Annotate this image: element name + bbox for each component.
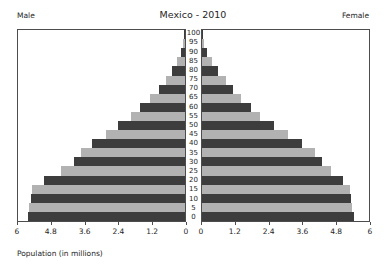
bar-row xyxy=(18,76,185,85)
bar-row xyxy=(18,194,185,203)
male-x-axis: 64.83.62.41.20 xyxy=(17,222,186,244)
female-tick-label-6: 6 xyxy=(368,227,373,236)
female-tick-mark-3.6 xyxy=(302,222,303,225)
male-bar-age-55 xyxy=(131,112,185,121)
male-bar-age-30 xyxy=(74,157,185,166)
age-tick-20: 20 xyxy=(186,176,201,185)
bar-row xyxy=(18,139,185,148)
male-tick-label-6: 6 xyxy=(15,227,20,236)
female-bar-age-15 xyxy=(202,185,350,194)
age-tick-100: 100 xyxy=(186,29,201,38)
bar-row xyxy=(18,130,185,139)
bar-row xyxy=(202,57,369,66)
female-bar-age-80 xyxy=(202,66,218,75)
female-bar-age-95 xyxy=(202,39,204,48)
female-bar-age-55 xyxy=(202,112,260,121)
bar-row xyxy=(202,85,369,94)
male-bar-age-70 xyxy=(159,85,185,94)
male-tick-label-3.6: 3.6 xyxy=(79,227,91,236)
bar-row xyxy=(202,66,369,75)
male-bar-age-5 xyxy=(29,203,185,212)
age-tick-75: 75 xyxy=(186,75,201,84)
age-tick-85: 85 xyxy=(186,57,201,66)
female-bar-age-35 xyxy=(202,148,315,157)
female-bar-age-65 xyxy=(202,94,241,103)
bar-row xyxy=(202,121,369,130)
female-tick-label-2.4: 2.4 xyxy=(263,227,275,236)
age-tick-15: 15 xyxy=(186,185,201,194)
male-plot-area xyxy=(17,29,186,222)
bar-row xyxy=(202,139,369,148)
male-bar-age-15 xyxy=(32,185,185,194)
female-bar-rows xyxy=(202,30,369,221)
bar-row xyxy=(18,176,185,185)
female-plot-area xyxy=(201,29,370,222)
age-group-axis: 0510152025303540455055606570758085909510… xyxy=(186,29,201,222)
age-tick-65: 65 xyxy=(186,93,201,102)
female-bar-age-45 xyxy=(202,130,288,139)
age-tick-30: 30 xyxy=(186,158,201,167)
male-tick-mark-6 xyxy=(17,222,18,225)
male-tick-mark-2.4 xyxy=(118,222,119,225)
bar-row xyxy=(18,112,185,121)
bar-row xyxy=(18,39,185,48)
male-tick-label-0: 0 xyxy=(184,227,189,236)
bar-row xyxy=(202,157,369,166)
bar-row xyxy=(202,185,369,194)
male-bar-age-85 xyxy=(177,57,185,66)
female-bar-age-30 xyxy=(202,157,322,166)
bar-row xyxy=(202,194,369,203)
age-tick-60: 60 xyxy=(186,103,201,112)
female-bar-age-90 xyxy=(202,48,207,57)
chart-title: Mexico - 2010 xyxy=(0,9,386,20)
bar-row xyxy=(18,103,185,112)
male-bar-age-20 xyxy=(44,176,185,185)
male-bar-age-25 xyxy=(61,166,185,175)
bar-row xyxy=(202,212,369,221)
bar-row xyxy=(18,57,185,66)
age-tick-55: 55 xyxy=(186,112,201,121)
male-tick-label-4.8: 4.8 xyxy=(45,227,57,236)
male-tick-mark-3.6 xyxy=(85,222,86,225)
bar-row xyxy=(202,39,369,48)
male-bar-age-10 xyxy=(31,194,185,203)
male-tick-label-2.4: 2.4 xyxy=(112,227,124,236)
age-tick-45: 45 xyxy=(186,130,201,139)
female-bar-age-20 xyxy=(202,176,343,185)
female-tick-label-0: 0 xyxy=(199,227,204,236)
female-tick-mark-0 xyxy=(201,222,202,225)
female-bar-age-60 xyxy=(202,103,251,112)
x-axis-label: Population (in millions) xyxy=(17,249,103,258)
male-tick-mark-4.8 xyxy=(51,222,52,225)
bar-row xyxy=(18,203,185,212)
male-tick-mark-0 xyxy=(186,222,187,225)
age-tick-0: 0 xyxy=(186,213,201,222)
age-tick-35: 35 xyxy=(186,149,201,158)
female-bar-age-85 xyxy=(202,57,212,66)
male-bar-age-50 xyxy=(118,121,185,130)
age-tick-50: 50 xyxy=(186,121,201,130)
age-tick-10: 10 xyxy=(186,194,201,203)
male-bar-age-45 xyxy=(106,130,185,139)
bar-row xyxy=(202,94,369,103)
bar-row xyxy=(18,48,185,57)
bar-row xyxy=(202,30,369,39)
male-bar-age-95 xyxy=(183,39,185,48)
female-tick-label-3.6: 3.6 xyxy=(296,227,308,236)
age-tick-80: 80 xyxy=(186,66,201,75)
bar-row xyxy=(18,185,185,194)
age-tick-40: 40 xyxy=(186,139,201,148)
bar-row xyxy=(202,112,369,121)
male-bar-age-80 xyxy=(172,66,185,75)
female-bar-age-40 xyxy=(202,139,302,148)
female-bar-age-10 xyxy=(202,194,351,203)
bar-row xyxy=(18,94,185,103)
age-tick-90: 90 xyxy=(186,47,201,56)
male-tick-mark-1.2 xyxy=(152,222,153,225)
female-tick-mark-6 xyxy=(370,222,371,225)
female-tick-mark-2.4 xyxy=(269,222,270,225)
female-bar-age-50 xyxy=(202,121,274,130)
bar-row xyxy=(18,85,185,94)
male-bar-age-90 xyxy=(181,48,185,57)
bar-row xyxy=(202,48,369,57)
